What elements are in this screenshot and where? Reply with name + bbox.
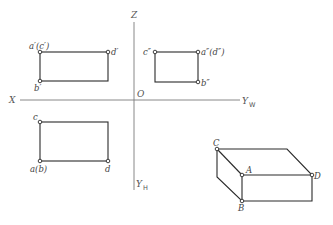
axis-label-yh-sub: H [143,184,148,192]
axis-label-x: X [8,95,16,105]
projection-diagram: Z X O Y W Y H a′(c′) d′ b′ c″ a″(d″) b″ … [0,0,333,225]
point-A [240,173,244,177]
label-a-double-prime-d-double-prime: a″(d″) [201,47,225,57]
front-view: a′(c′) d′ b′ [29,41,118,93]
side-view-rect [155,52,198,82]
label-a-prime-c-prime: a′(c′) [29,41,49,51]
point-a-double-prime [196,50,200,54]
axis-label-yw: Y [242,96,249,106]
label-c: c [33,112,38,122]
label-d: d [105,164,111,174]
axis-label-yw-sub: W [249,101,256,109]
front-view-rect [40,52,108,81]
point-d-prime [106,50,110,54]
box-edge-ca [217,149,242,175]
axis-label-z: Z [130,10,138,20]
point-a [38,159,42,163]
top-view: c a(b) d [30,112,111,174]
label-D: D [313,171,321,181]
point-d [106,159,110,163]
label-c-double-prime: c″ [143,47,152,57]
point-c-double-prime [153,50,157,54]
label-d-prime: d′ [111,47,118,57]
origin-label: O [137,89,145,99]
axis-label-yh: Y [136,179,143,189]
label-C: C [213,138,220,148]
label-A: A [245,165,252,175]
point-c [38,120,42,124]
isometric-box: C A D B [213,138,321,213]
label-B: B [237,203,244,213]
side-view: c″ a″(d″) b″ [143,47,225,88]
label-a-b: a(b) [30,164,47,174]
point-b-double-prime [196,80,200,84]
label-b-double-prime: b″ [201,78,210,88]
label-b-prime: b′ [34,83,41,93]
top-view-rect [40,122,108,161]
